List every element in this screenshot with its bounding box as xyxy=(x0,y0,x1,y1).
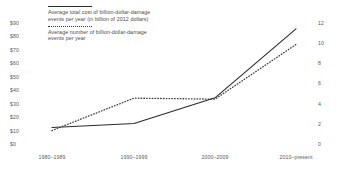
x-axis-label-1990-1999: 1990–1999 xyxy=(121,155,148,160)
x-axis-label-2000-2009: 2000–2009 xyxy=(202,155,229,160)
legend-label-count: Average number of billion-dollar-damage … xyxy=(48,29,156,42)
legend-entry-count: Average number of billion-dollar-damage … xyxy=(48,26,156,42)
x-axis-label-1980-1989: 1980–1989 xyxy=(39,155,66,160)
dotted-line-swatch-icon xyxy=(48,26,92,27)
series-line-count xyxy=(52,44,296,130)
legend-label-cost: Average total cost of billion-dollar-dam… xyxy=(48,9,156,22)
solid-line-swatch-icon xyxy=(48,6,92,7)
legend-entry-cost: Average total cost of billion-dollar-dam… xyxy=(48,6,156,22)
chart-container: $90 $80 $70 $60 $50 $40 $30 $20 $10 $0 1… xyxy=(0,0,337,176)
x-axis-label-2010-present: 2010–present xyxy=(280,155,313,160)
chart-legend: Average total cost of billion-dollar-dam… xyxy=(48,6,156,45)
